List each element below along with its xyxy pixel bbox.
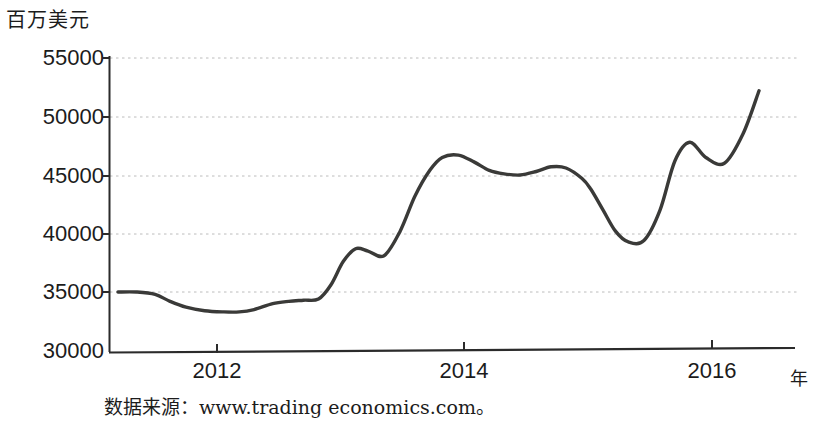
x-tick-label: 2012	[193, 358, 242, 384]
x-tick-label: 2014	[440, 358, 489, 384]
gridlines	[110, 58, 800, 292]
source-note: 数据来源：www.trading economics.com。	[104, 392, 495, 419]
data-line-series-1	[118, 91, 759, 312]
x-axis-unit-label: 年	[790, 364, 808, 390]
x-tick-label: 2016	[688, 358, 737, 384]
x-axis-line	[109, 348, 795, 353]
chart-figure: 百万美元 55000 50000 45000 40000 35000 30000	[0, 0, 816, 422]
